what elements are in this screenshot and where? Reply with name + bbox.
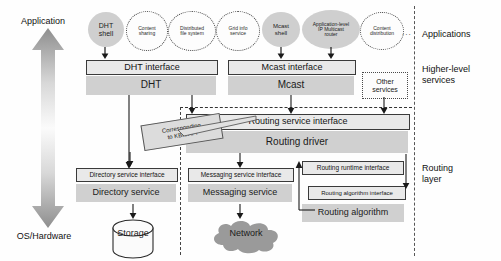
- arrow-other-services-to-routing-service-interface: [378, 97, 390, 115]
- architecture-diagram: Application OS/Hardware Applications Hig…: [0, 0, 501, 261]
- dht-interface[interactable]: DHT interface: [86, 60, 218, 75]
- app-mcast-shell[interactable]: Mcast shell: [262, 12, 300, 47]
- axis-bottom-label: OS/Hardware: [3, 231, 85, 242]
- routing-runtime-interface[interactable]: Routing runtime interface: [302, 161, 404, 175]
- arrow-directory-to-storage: [127, 204, 139, 220]
- directory-service-interface[interactable]: Directory service interface: [76, 168, 178, 182]
- arrow-driver-to-messaging-interface: [234, 153, 246, 169]
- app-grid-info-service[interactable]: Grid info service: [216, 11, 260, 51]
- app-dht-shell[interactable]: DHT shell: [88, 12, 124, 47]
- dht-block[interactable]: DHT: [86, 76, 216, 95]
- routing-algorithm-block[interactable]: Routing algorithm: [302, 204, 404, 222]
- callout-pointer: [178, 114, 258, 140]
- storage-cylinder: [110, 219, 156, 259]
- app-ip-multicast-router[interactable]: Application-level IP Multicast router: [302, 10, 360, 49]
- mcast-interface[interactable]: Mcast interface: [228, 60, 356, 75]
- arrow-messaging-to-network: [234, 204, 246, 220]
- layer-label-higher-level-services: Higher-level services: [422, 64, 498, 85]
- app-content-sharing[interactable]: Content sharing: [126, 11, 168, 51]
- layer-label-divider: [414, 6, 415, 256]
- routing-algorithm-interface[interactable]: Routing algorithm interface: [308, 186, 406, 200]
- layer-axis-arrow: [30, 28, 66, 228]
- arrow-dht-to-routing-service-interface: [186, 95, 198, 115]
- arrow-router-to-mcast-interface: [325, 47, 337, 60]
- app-content-distribution[interactable]: Content distribution: [360, 12, 404, 50]
- messaging-service-block[interactable]: Messaging service: [188, 184, 292, 202]
- axis-top-label: Application: [7, 16, 79, 27]
- arrow-runtime-to-algorithm-interface: [400, 154, 412, 190]
- layer-label-routing-layer: Routing layer: [422, 163, 498, 184]
- layer-label-applications: Applications: [422, 29, 498, 40]
- arrow-dht-shell-to-interface: [99, 47, 111, 60]
- mcast-block[interactable]: Mcast: [228, 76, 354, 95]
- applications-ellipsis: ...: [402, 28, 412, 37]
- other-services-box[interactable]: Other services: [362, 72, 408, 99]
- messaging-service-interface[interactable]: Messaging service interface: [188, 168, 294, 182]
- arrow-mcast-to-routing-service-interface: [285, 95, 297, 115]
- storage-label: Storage: [110, 228, 156, 239]
- app-distributed-file-system[interactable]: Distributed file system: [168, 11, 216, 51]
- directory-service-block[interactable]: Directory service: [76, 184, 176, 202]
- arrow-mcast-shell-to-interface: [275, 47, 287, 60]
- network-label: Network: [210, 228, 282, 239]
- arrow-to-directory-service: [124, 152, 136, 168]
- arrow-algorithm-to-runtime-interface: [293, 160, 305, 210]
